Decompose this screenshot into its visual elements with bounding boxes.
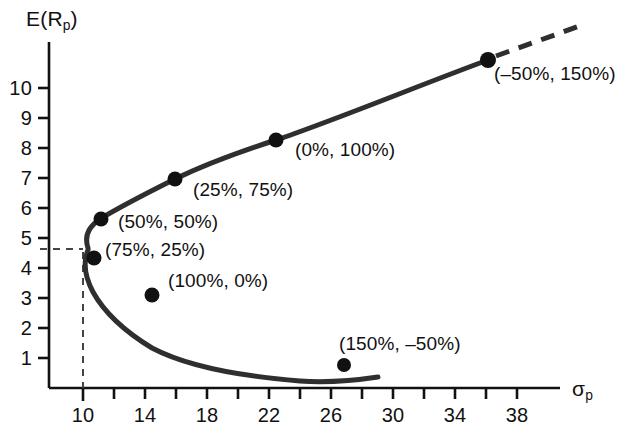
y-tick-label: 9 [0, 108, 32, 128]
point-annotation-neg50-150: (–50%, 150%) [494, 64, 616, 83]
point-annotation-100-0: (100%, 0%) [168, 271, 268, 290]
y-tick-label: 5 [0, 228, 32, 248]
data-point-marker[interactable] [337, 358, 351, 372]
frontier-extension-dashed [496, 24, 585, 56]
y-axis-title-close: ) [70, 7, 77, 30]
x-tick-label: 14 [120, 405, 170, 425]
x-tick-label: 18 [182, 405, 232, 425]
y-axis-title: E(Rp) [26, 8, 78, 33]
point-annotation-150-neg50: (150%, –50%) [339, 334, 461, 353]
x-tick-label: 30 [368, 405, 418, 425]
x-tick-label: 26 [306, 405, 356, 425]
y-tick-label: 4 [0, 258, 32, 278]
point-annotation-25-75: (25%, 75%) [193, 180, 293, 199]
y-tick-marks [38, 88, 49, 358]
x-tick-label: 38 [492, 405, 542, 425]
data-point-marker[interactable] [94, 212, 109, 227]
y-tick-label: 2 [0, 318, 32, 338]
y-tick-label: 10 [0, 78, 32, 98]
y-tick-label: 6 [0, 198, 32, 218]
x-tick-label: 22 [244, 405, 294, 425]
x-axis-title: σp [572, 378, 593, 403]
x-tick-label: 10 [58, 405, 108, 425]
y-tick-label: 7 [0, 168, 32, 188]
y-axis-title-main: E(R [26, 7, 63, 30]
data-point-marker[interactable] [87, 251, 102, 266]
point-annotation-75-25: (75%, 25%) [105, 240, 205, 259]
x-axis-title-subscript: p [585, 387, 593, 403]
point-annotation-0-100: (0%, 100%) [295, 140, 395, 159]
data-point-marker[interactable] [168, 172, 183, 187]
x-tick-label: 34 [430, 405, 480, 425]
y-tick-label: 1 [0, 348, 32, 368]
x-tick-marks [83, 388, 517, 401]
data-point-marker[interactable] [145, 288, 160, 303]
y-tick-label: 8 [0, 138, 32, 158]
x-axis-title-main: σ [572, 377, 585, 400]
chart-figure: E(Rp) σp 10 9 8 7 6 5 4 3 2 1 10 14 18 2… [0, 0, 627, 430]
y-tick-label: 3 [0, 288, 32, 308]
point-annotation-50-50: (50%, 50%) [118, 212, 218, 231]
data-point-marker[interactable] [269, 133, 284, 148]
